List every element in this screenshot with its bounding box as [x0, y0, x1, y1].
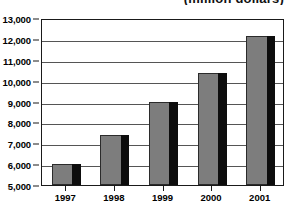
y-tick-mark: [33, 39, 39, 40]
y-tick-mark: [33, 144, 39, 145]
y-tick-label: 12,000: [3, 34, 31, 45]
chart-subtitle: (million dollars): [0, 0, 284, 5]
x-tick-mark: [211, 186, 212, 191]
y-tick-mark: [33, 102, 39, 103]
bar-face: [52, 164, 72, 185]
y-tick-label: 10,000: [3, 76, 31, 87]
y-tick-label: 5,000: [8, 181, 31, 192]
y-tick-mark: [33, 123, 39, 124]
y-tick-label: 7,000: [8, 139, 31, 150]
y-tick-mark: [33, 60, 39, 61]
x-tick-mark: [65, 186, 66, 191]
bar-shadow: [218, 73, 227, 185]
x-tick-label: 1997: [55, 192, 76, 203]
y-tick-mark: [33, 165, 39, 166]
bar-series: [42, 20, 283, 185]
bar-2001: [246, 36, 275, 185]
y-tick-label: 9,000: [8, 97, 31, 108]
bar-1998: [100, 135, 129, 185]
x-tick-label: 2001: [249, 192, 270, 203]
y-tick-mark: [33, 19, 39, 20]
x-tick-mark: [163, 186, 164, 191]
bar-face: [198, 73, 218, 185]
bar-1999: [149, 102, 178, 186]
bar-2000: [198, 73, 227, 185]
y-tick-label: 13,000: [3, 14, 31, 25]
bar-1997: [52, 164, 81, 185]
bar-shadow: [72, 164, 81, 185]
y-tick-label: 8,000: [8, 118, 31, 129]
x-axis: 19971998199920002001: [41, 186, 284, 217]
x-tick-label: 1998: [103, 192, 124, 203]
x-tick-label: 1999: [152, 192, 173, 203]
y-tick-label: 11,000: [3, 55, 31, 66]
y-tick-mark: [33, 81, 39, 82]
y-tick-mark: [33, 186, 39, 187]
bar-face: [246, 36, 266, 185]
bar-face: [149, 102, 169, 186]
x-tick-label: 2000: [201, 192, 222, 203]
y-axis: 5,0006,0007,0008,0009,00010,00011,00012,…: [0, 0, 39, 217]
bar-face: [100, 135, 120, 185]
x-tick-mark: [260, 186, 261, 191]
bar-shadow: [267, 36, 276, 185]
x-tick-mark: [114, 186, 115, 191]
y-tick-label: 6,000: [8, 160, 31, 171]
bar-shadow: [121, 135, 130, 185]
bar-shadow: [169, 102, 178, 186]
plot-area: [41, 19, 284, 186]
